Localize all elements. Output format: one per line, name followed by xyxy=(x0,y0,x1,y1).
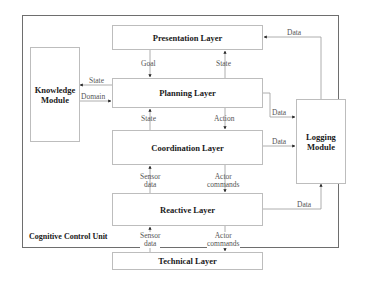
edge-label-action: Action xyxy=(214,115,234,123)
logging-module-label-line2: Module xyxy=(307,142,335,152)
technical-layer-label: Technical Layer xyxy=(158,256,216,266)
presentation-layer: Presentation Layer xyxy=(112,25,263,50)
knowledge-module-label-line1: Knowledge xyxy=(35,85,76,95)
edge-label-sensor-data-upper: Sensor data xyxy=(140,173,160,189)
technical-layer: Technical Layer xyxy=(112,252,263,270)
planning-layer: Planning Layer xyxy=(112,78,263,108)
edge-label-data-coordination: Data xyxy=(272,138,286,146)
logging-module-label-line1: Logging xyxy=(306,132,336,142)
cognitive-control-unit-title: Cognitive Control Unit xyxy=(29,232,108,241)
logging-module: Logging Module xyxy=(296,99,346,184)
edge-label-actor-commands-upper: Actor commands xyxy=(207,173,240,189)
presentation-layer-label: Presentation Layer xyxy=(153,33,222,43)
edge-label-data-reactive: Data xyxy=(297,201,311,209)
edge-label-state-knowledge: State xyxy=(89,77,104,85)
edge-label-domain: Domain xyxy=(81,93,105,101)
edge-label-data-presentation: Data xyxy=(287,29,301,37)
edge-label-actor-commands-lower: Actor commands xyxy=(207,232,240,248)
coordination-layer-label: Coordination Layer xyxy=(151,143,224,153)
edge-label-state-coordination: State xyxy=(141,115,156,123)
knowledge-module: Knowledge Module xyxy=(30,47,80,142)
reactive-layer-label: Reactive Layer xyxy=(160,205,215,215)
coordination-layer: Coordination Layer xyxy=(112,130,263,165)
edge-label-data-planning: Data xyxy=(272,109,286,117)
knowledge-module-label-line2: Module xyxy=(41,95,69,105)
edge-label-goal: Goal xyxy=(141,60,156,68)
reactive-layer: Reactive Layer xyxy=(112,193,263,226)
edge-label-state-presentation: State xyxy=(216,60,231,68)
planning-layer-label: Planning Layer xyxy=(159,88,215,98)
edge-label-sensor-data-lower: Sensor data xyxy=(140,232,160,248)
